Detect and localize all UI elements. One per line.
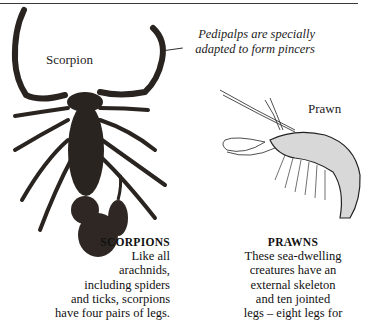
scorpion-label: Scorpion (46, 52, 93, 68)
callout-line-1: Pedipalps are specially (183, 27, 315, 42)
prawn-illustration (215, 80, 365, 220)
scorpions-caption-line: including spiders (0, 278, 170, 292)
prawns-caption-line: legs – eight legs for (228, 306, 358, 320)
scorpions-heading: SCORPIONS (0, 235, 170, 249)
scorpions-caption-line: and ticks, scorpions (0, 292, 170, 306)
prawns-caption-line: and ten jointed (228, 292, 358, 306)
pedipalps-callout: Pedipalps are specially adapted to form … (183, 27, 315, 57)
scorpions-caption-line: have four pairs of legs. (0, 306, 170, 320)
prawn-label: Prawn (308, 101, 341, 117)
prawns-caption-line: These sea-dwelling (228, 249, 358, 263)
callout-line-2: adapted to form pincers (183, 42, 315, 57)
prawns-caption-line: creatures have an (228, 263, 358, 277)
prawns-caption: PRAWNS These sea-dwelling creatures have… (228, 235, 358, 320)
scorpions-caption: SCORPIONS Like all arachnids, including … (0, 235, 170, 320)
prawns-heading: PRAWNS (228, 235, 358, 249)
scorpions-caption-line: arachnids, (0, 263, 170, 277)
prawns-caption-line: external skeleton (228, 278, 358, 292)
scorpions-caption-line: Like all (0, 249, 170, 263)
